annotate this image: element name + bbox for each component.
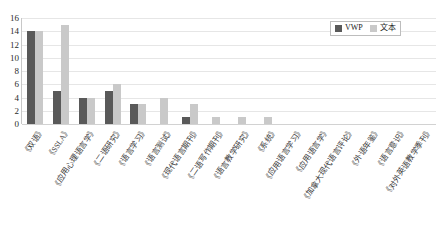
bar-group xyxy=(48,18,74,124)
legend-item[interactable]: VWP xyxy=(335,23,363,33)
legend-item[interactable]: 文本 xyxy=(370,23,396,33)
y-axis-tick-label: 4 xyxy=(15,93,20,102)
y-axis-tick-label: 10 xyxy=(10,53,19,62)
bar-text xyxy=(238,117,246,124)
bar-text xyxy=(138,104,146,124)
y-axis-tick-label: 8 xyxy=(15,67,20,76)
legend-label: 文本 xyxy=(380,23,396,33)
bar-text xyxy=(87,98,95,125)
bar-group xyxy=(177,18,203,124)
legend-label: VWP xyxy=(345,23,363,33)
y-axis: 1614121086420 xyxy=(0,18,22,124)
bar-group xyxy=(307,18,333,124)
bar-group xyxy=(22,18,48,124)
bar-group xyxy=(229,18,255,124)
bar-chart-figure: 1614121086420 VWP文本 《双语》《SSLA》《应用心理语言学》《… xyxy=(0,0,446,228)
bar-group xyxy=(255,18,281,124)
bar-group xyxy=(126,18,152,124)
bar-text xyxy=(190,104,198,124)
bar-vwp xyxy=(53,91,61,124)
bar-group xyxy=(410,18,436,124)
bar-group xyxy=(74,18,100,124)
bar-text xyxy=(212,117,220,124)
y-axis-tick-label: 0 xyxy=(15,120,20,129)
y-axis-tick-label: 6 xyxy=(15,80,20,89)
bar-vwp xyxy=(105,91,113,124)
x-axis-labels: 《双语》《SSLA》《应用心理语言学》《二语研究》《语言学习》《语言测试》《现代… xyxy=(22,124,436,228)
bar-vwp xyxy=(130,104,138,124)
bar-text xyxy=(61,25,69,124)
bar-vwp xyxy=(27,31,35,124)
y-axis-tick-label: 12 xyxy=(10,40,19,49)
legend-swatch-icon xyxy=(370,25,377,32)
bar-group xyxy=(203,18,229,124)
bar-group xyxy=(151,18,177,124)
bar-vwp xyxy=(79,98,87,125)
bar-vwp xyxy=(182,117,190,124)
bar-text xyxy=(160,98,168,125)
y-axis-tick-label: 16 xyxy=(10,14,19,23)
chart-legend: VWP文本 xyxy=(330,21,401,36)
bar-text xyxy=(113,84,121,124)
bar-group xyxy=(100,18,126,124)
bar-group xyxy=(281,18,307,124)
y-axis-tick-label: 2 xyxy=(15,106,20,115)
bar-text xyxy=(264,117,272,124)
bar-text xyxy=(35,31,43,124)
y-axis-tick-label: 14 xyxy=(10,27,19,36)
legend-swatch-icon xyxy=(335,25,342,32)
